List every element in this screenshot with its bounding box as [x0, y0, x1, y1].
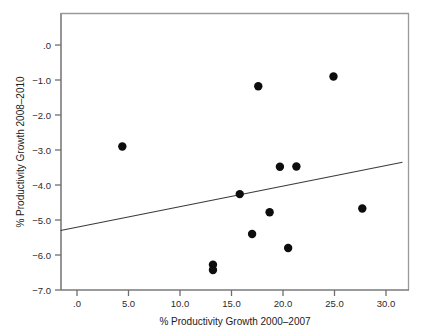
data-point [329, 72, 337, 80]
data-point [276, 163, 284, 171]
y-tick-label: −1.0 [32, 75, 51, 86]
x-tick-label: 20.0 [274, 298, 293, 309]
y-tick-label: −4.0 [32, 180, 51, 191]
data-point [265, 208, 273, 216]
data-point [254, 82, 262, 90]
plot-background [0, 0, 425, 334]
y-tick-label: −3.0 [32, 145, 51, 156]
y-tick-label: −6.0 [32, 250, 51, 261]
data-point [292, 162, 300, 170]
y-tick-label: −2.0 [32, 110, 51, 121]
x-tick-label: 10.0 [171, 298, 190, 309]
y-axis-title: % Productivity Growth 2008–2010 [15, 76, 26, 228]
plot-canvas: .0 −1.0 −2.0 −3.0 −4.0 −5.0 −6.0 −7.0 .0… [0, 0, 425, 334]
x-tick-label: 5.0 [122, 298, 135, 309]
data-point [248, 230, 256, 238]
x-tick-label: 15.0 [222, 298, 241, 309]
x-tick-label: 25.0 [325, 298, 344, 309]
data-point [284, 244, 292, 252]
y-tick-label: .0 [43, 40, 51, 51]
y-tick-label: −5.0 [32, 215, 51, 226]
x-tick-label: 30.0 [377, 298, 396, 309]
data-point [209, 266, 217, 274]
x-tick-label: .0 [73, 298, 81, 309]
data-point [118, 142, 126, 150]
data-point [236, 190, 244, 198]
y-tick-label: −7.0 [32, 285, 51, 296]
data-point [358, 204, 366, 212]
x-axis-title: % Productivity Growth 2000–2007 [159, 316, 311, 327]
scatter-plot-figure: .0 −1.0 −2.0 −3.0 −4.0 −5.0 −6.0 −7.0 .0… [0, 0, 425, 334]
